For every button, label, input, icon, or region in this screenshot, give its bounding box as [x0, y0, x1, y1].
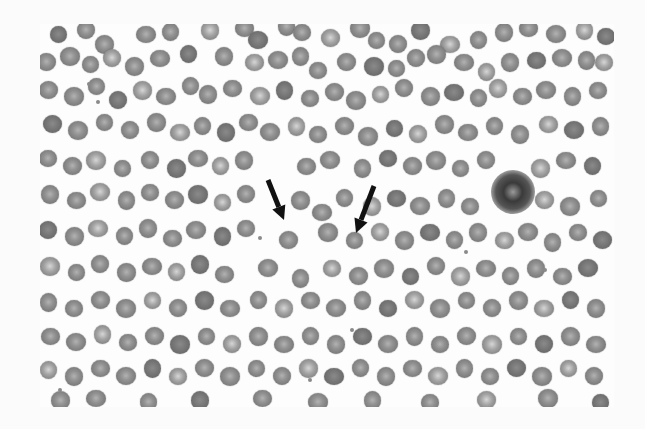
- micrograph: [40, 24, 614, 407]
- arrow-icon: [40, 24, 614, 407]
